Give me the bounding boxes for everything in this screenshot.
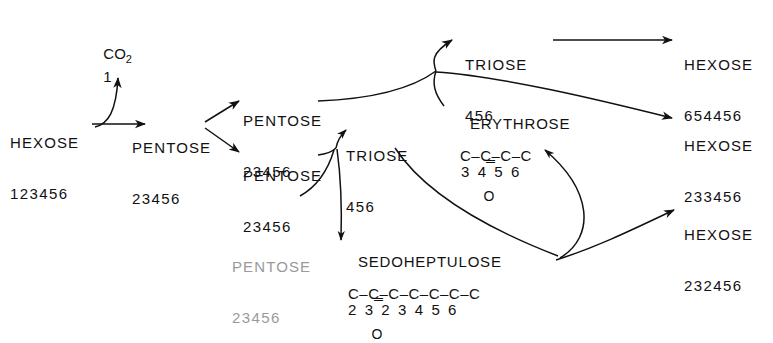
sedoheptulose-numbers: 2 3 2 3 4 5 6 (348, 302, 456, 318)
pentose-main-digits: 23456 (132, 190, 211, 207)
node-pentose-faded: PENTOSE 23456 (232, 224, 311, 343)
pentose-upper-label: PENTOSE (243, 112, 322, 129)
node-co2: CO2 1 (95, 28, 132, 85)
erythrose-numbers: 3 4 5 6 (461, 164, 519, 180)
hexose-start-digits: 123456 (10, 185, 79, 202)
node-triose-mid: TRIOSE 456 (346, 113, 408, 232)
edge-pentose-upper-to-junction (318, 71, 436, 101)
hexose-top-label: HEXOSE (684, 56, 753, 73)
co2-subscript: 2 (126, 53, 132, 65)
hexose-mid-label: HEXOSE (684, 137, 753, 154)
node-pentose-main: PENTOSE 23456 (132, 105, 211, 224)
edge-junction-to-erythrose (434, 71, 444, 106)
edge-pentose-lower-to-triose-mid (336, 130, 346, 148)
erythrose-label: ERYTHROSE (470, 115, 570, 132)
erythrose-backbone: C–C–C–C (460, 148, 570, 164)
erythrose-carbonyl-atom: O (481, 189, 497, 203)
node-hexose-bottom: HEXOSE 232456 (684, 192, 753, 311)
sedoheptulose-label: SEDOHEPTULOSE (358, 253, 502, 270)
pentose-faded-digits: 23456 (232, 309, 311, 326)
pentose-faded-label: PENTOSE (232, 258, 311, 275)
hexose-start-label: HEXOSE (10, 134, 79, 151)
sedoheptulose-carbonyl-atom: O (369, 327, 385, 341)
pentose-lower-label: PENTOSE (243, 167, 322, 184)
edge-hexose-to-co2 (95, 78, 118, 127)
edge-junction-to-triose-top (434, 40, 452, 71)
triose-top-label: TRIOSE (465, 56, 527, 73)
edge-pentose-lower-to-sedoheptulose (337, 149, 341, 240)
co2-digits: 1 (103, 68, 111, 85)
triose-mid-label: TRIOSE (346, 147, 408, 164)
edge-sedoheptulose-to-hexose-bottom (556, 210, 674, 260)
co2-label: CO (103, 45, 126, 62)
hexose-bottom-digits: 232456 (684, 277, 753, 294)
hexose-bottom-label: HEXOSE (684, 226, 753, 243)
pentose-main-label: PENTOSE (132, 139, 211, 156)
triose-mid-digits: 456 (346, 198, 408, 215)
node-hexose-start: HEXOSE 123456 (10, 100, 79, 219)
